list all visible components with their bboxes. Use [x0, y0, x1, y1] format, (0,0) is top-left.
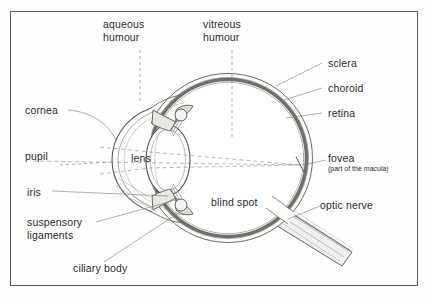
lens-shape	[146, 125, 190, 195]
label-optic-nerve: optic nerve	[320, 199, 373, 212]
label-choroid: choroid	[328, 82, 364, 95]
label-fovea-note: (part of the macula)	[328, 165, 389, 174]
label-retina: retina	[328, 107, 355, 120]
eye-anatomy-illustration	[0, 0, 432, 302]
label-iris: iris	[27, 186, 41, 199]
label-suspensory-ligaments: suspensory ligaments	[27, 216, 82, 241]
label-ciliary-body: ciliary body	[73, 262, 127, 275]
label-cornea: cornea	[25, 104, 58, 117]
label-aqueous-humour: aqueous humour	[103, 18, 144, 43]
eye-diagram-page: aqueous humour vitreous humour sclera ch…	[0, 0, 432, 302]
label-fovea: fovea	[328, 152, 354, 165]
label-blind-spot: blind spot	[211, 196, 257, 209]
label-pupil: pupil	[25, 150, 48, 163]
label-lens: lens	[131, 152, 151, 165]
label-vitreous-humour: vitreous humour	[203, 18, 241, 43]
label-sclera: sclera	[328, 57, 357, 70]
